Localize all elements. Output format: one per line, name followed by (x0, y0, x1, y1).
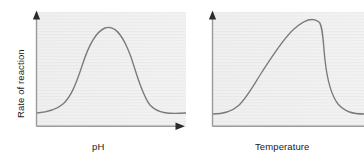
ph-plot-svg (0, 0, 186, 161)
temperature-gridlines (213, 12, 364, 126)
enzyme-rate-figure: Rate of reaction pH (0, 0, 364, 161)
ph-x-axis-label: pH (92, 142, 104, 152)
ph-y-axis-label: Rate of reaction (16, 49, 26, 118)
chart-ph: Rate of reaction pH (0, 0, 186, 161)
temperature-x-axis-label: Temperature (255, 142, 309, 152)
chart-temperature: Temperature (186, 0, 364, 161)
temperature-plot-svg (186, 0, 364, 161)
ph-gridlines (37, 12, 186, 126)
